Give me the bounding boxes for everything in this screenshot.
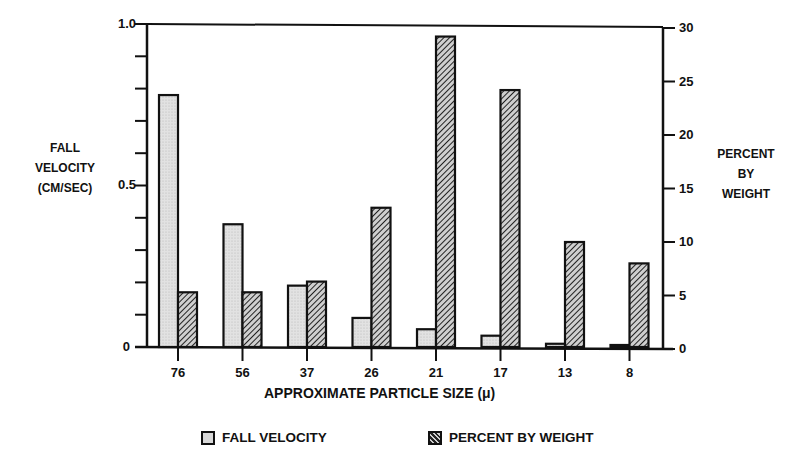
right-axis-title: PERCENT BY WEIGHT [706, 144, 786, 204]
right-axis-tick-label: 5 [679, 288, 709, 303]
bar-percent-by-weight [630, 263, 649, 347]
right-axis-tick-label: 10 [679, 234, 709, 249]
x-axis-category-label: 17 [481, 365, 521, 380]
x-axis-category-label: 13 [545, 365, 585, 380]
left-axis-title-line2: VELOCITY [20, 158, 110, 178]
axes [135, 24, 675, 361]
x-axis-category-label: 76 [158, 365, 198, 380]
bar-fall-velocity [159, 95, 178, 347]
x-axis-title: APPROXIMATE PARTICLE SIZE (μ) [264, 385, 495, 401]
bars [159, 37, 649, 347]
right-axis-title-line3: WEIGHT [706, 184, 786, 204]
left-axis-label-bottom: 0 [90, 339, 130, 354]
left-axis-title: FALL VELOCITY (CM/SEC) [20, 138, 110, 198]
legend-item-percent-by-weight: PERCENT BY WEIGHT [428, 430, 594, 445]
x-axis-category-label: 37 [287, 365, 327, 380]
right-axis-tick-label: 15 [679, 181, 709, 196]
right-axis-tick-label: 20 [679, 127, 709, 142]
bar-percent-by-weight [178, 292, 197, 347]
x-axis-line [135, 347, 673, 349]
bar-percent-by-weight [501, 90, 520, 347]
x-axis-category-label: 26 [352, 365, 392, 380]
bar-fall-velocity [353, 318, 372, 347]
x-axis-category-label: 56 [223, 365, 263, 380]
right-axis-title-line2: BY [706, 164, 786, 184]
right-axis-tick-label: 0 [679, 341, 709, 356]
bar-percent-by-weight [372, 208, 391, 347]
legend-label-percent-by-weight: PERCENT BY WEIGHT [449, 430, 594, 445]
bar-fall-velocity [482, 336, 501, 347]
bar-fall-velocity [546, 344, 565, 347]
legend-item-fall-velocity: FALL VELOCITY [201, 430, 327, 445]
bar-percent-by-weight [436, 37, 455, 347]
left-axis-title-line3: (CM/SEC) [20, 178, 110, 198]
bar-percent-by-weight [243, 292, 262, 347]
bar-fall-velocity [224, 224, 243, 347]
left-axis-title-line1: FALL [20, 138, 110, 158]
bar-fall-velocity [417, 329, 436, 347]
x-axis-category-label: 8 [610, 365, 650, 380]
bar-percent-by-weight [307, 282, 326, 347]
bar-fall-velocity [288, 286, 307, 347]
top-frame-line [147, 24, 663, 27]
right-axis-tick-label: 30 [679, 20, 709, 35]
bar-fall-velocity [611, 345, 630, 347]
right-axis-tick-label: 25 [679, 74, 709, 89]
legend-label-fall-velocity: FALL VELOCITY [222, 430, 327, 445]
percent-by-weight-swatch-icon [428, 431, 442, 445]
fall-velocity-swatch-icon [201, 431, 215, 445]
left-axis-label-top: 1.0 [96, 16, 136, 31]
right-axis-title-line1: PERCENT [706, 144, 786, 164]
bar-percent-by-weight [565, 242, 584, 347]
x-axis-category-label: 21 [416, 365, 456, 380]
